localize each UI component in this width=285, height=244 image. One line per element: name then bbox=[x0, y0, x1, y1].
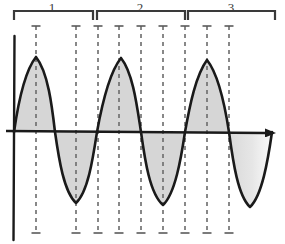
waveform-svg bbox=[0, 0, 285, 244]
amplitude-axis-line bbox=[14, 36, 15, 240]
cycle-label-1: 1 bbox=[44, 1, 60, 14]
waveform-cycle-figure: 1 2 3 bbox=[0, 0, 285, 244]
cycle-label-3: 3 bbox=[223, 1, 239, 14]
cycle-label-2: 2 bbox=[132, 1, 148, 14]
